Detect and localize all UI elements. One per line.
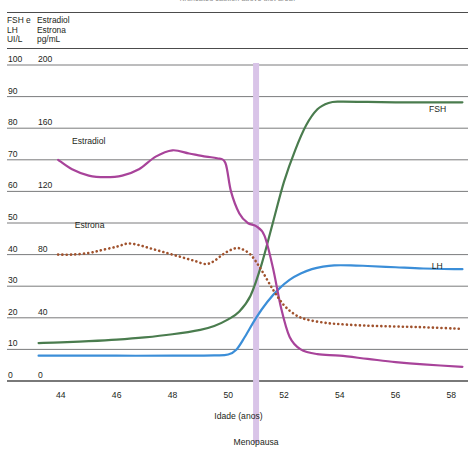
y-tick-label-left-60: 60 <box>8 180 18 190</box>
y-tick-label-secondary-0: 0 <box>38 370 43 380</box>
y-tick-label-left-20: 20 <box>8 307 18 317</box>
x-tick-label-58: 58 <box>446 390 456 400</box>
y-tick-label-left-0: 0 <box>8 370 13 380</box>
y-tick-label-left-10: 10 <box>8 338 18 348</box>
y-tick-label-left-80: 80 <box>8 117 18 127</box>
x-axis-title: Idade (anos) <box>214 411 262 421</box>
truncated-title: (truncated caption above plot area) <box>0 0 475 1</box>
y-tick-label-secondary-80: 80 <box>38 244 48 254</box>
menopause-label: Menopausa <box>234 437 279 447</box>
y-tick-label-left-30: 30 <box>8 275 18 285</box>
units-left-column: FSH e LH UI/L <box>7 16 31 45</box>
y-tick-label-left-40: 40 <box>8 244 18 254</box>
header-bottom-rule <box>7 48 468 49</box>
series-label-estrona: Estrona <box>75 220 105 230</box>
y-tick-label-left-70: 70 <box>8 149 18 159</box>
y-tick-label-left-90: 90 <box>8 86 18 96</box>
chart-canvas: 0102030405060708090100040801201602004446… <box>0 0 475 449</box>
y-tick-label-secondary-120: 120 <box>38 180 53 190</box>
series-label-fsh: FSH <box>429 104 446 114</box>
x-tick-label-46: 46 <box>112 390 122 400</box>
x-tick-label-50: 50 <box>223 390 233 400</box>
x-tick-label-52: 52 <box>279 390 289 400</box>
y-tick-label-left-50: 50 <box>8 212 18 222</box>
x-tick-label-54: 54 <box>335 390 345 400</box>
y-tick-label-secondary-40: 40 <box>38 307 48 317</box>
x-tick-label-44: 44 <box>56 390 66 400</box>
hormone-chart-figure: (truncated caption above plot area) FSH … <box>0 0 475 449</box>
series-label-estradiol: Estradiol <box>72 136 106 146</box>
y-tick-label-secondary-200: 200 <box>38 54 53 64</box>
series-label-lh: LH <box>432 261 443 271</box>
header-top-rule <box>7 12 468 13</box>
series-line-lh <box>39 265 463 356</box>
y-tick-label-secondary-160: 160 <box>38 117 53 127</box>
x-tick-label-48: 48 <box>168 390 178 400</box>
y-tick-label-left-100: 100 <box>8 54 23 64</box>
series-line-estradiol <box>58 150 462 367</box>
x-tick-label-56: 56 <box>391 390 401 400</box>
units-right-column: Estradiol Estrona pg/mL <box>37 16 70 45</box>
menopause-band <box>253 63 259 443</box>
